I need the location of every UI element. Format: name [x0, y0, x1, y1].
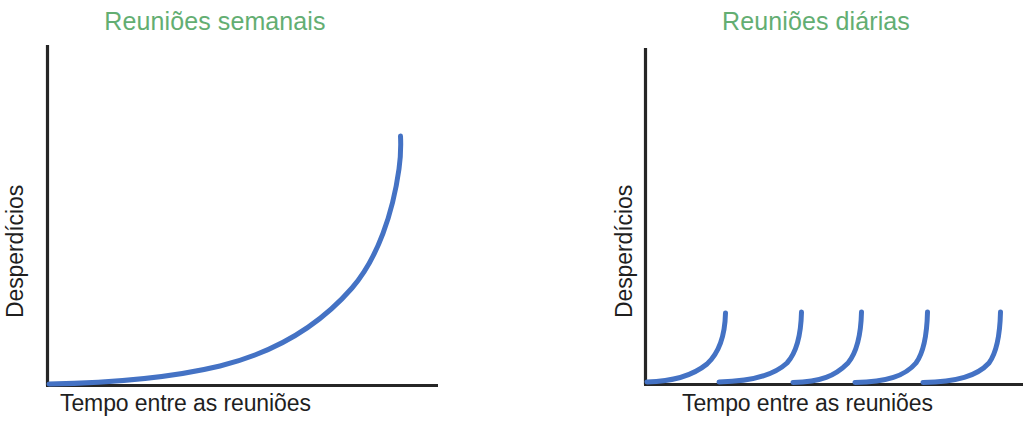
plot-area-daily	[511, 0, 1023, 424]
y-axis-label-daily: Desperdícios	[611, 185, 637, 318]
chart-panel-weekly: Reuniões semanais Tempo entre as reuniõe…	[0, 0, 512, 424]
plot-area-weekly	[0, 0, 512, 424]
chart-panel-daily: Reuniões diárias Tempo entre as reuniões…	[511, 0, 1023, 424]
y-axis-label-weekly: Desperdícios	[2, 185, 28, 318]
sawtooth-cycle-4	[855, 312, 928, 383]
sawtooth-cycle-2	[719, 312, 802, 382]
sawtooth-cycle-5	[923, 312, 1001, 383]
x-axis-label-weekly: Tempo entre as reuniões	[60, 389, 311, 417]
sawtooth-cycle-1	[647, 313, 726, 382]
x-axis-label-daily: Tempo entre as reuniões	[682, 389, 933, 417]
two-chart-figure: Reuniões semanais Tempo entre as reuniõe…	[0, 0, 1023, 424]
exponential-curve-weekly	[49, 136, 401, 384]
